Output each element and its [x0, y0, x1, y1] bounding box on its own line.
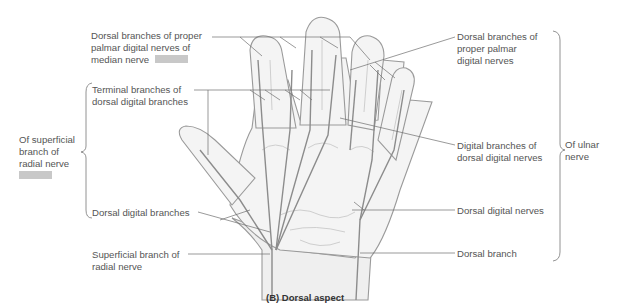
- label-dorsal-digital-branches: Dorsal digital branches: [92, 207, 190, 219]
- figure-caption: (B) Dorsal aspect: [266, 292, 344, 303]
- label-ulnar-group: Of ulnar nerve: [565, 139, 599, 163]
- label-terminal-branches: Terminal branches of dorsal digital bran…: [92, 84, 188, 108]
- label-ulnar-dorsal-branches: Dorsal branches of proper palmar digital…: [457, 31, 538, 67]
- median-nerve-color-key: [155, 55, 188, 63]
- radial-nerve-color-key: [19, 171, 52, 179]
- label-superficial-radial-group: Of superficial branch of radial nerve: [19, 134, 75, 170]
- label-dorsal-digital-nerves: Dorsal digital nerves: [457, 205, 544, 217]
- label-superficial-branch-radial: Superficial branch of radial nerve: [92, 249, 179, 273]
- label-digital-branches-dorsal: Digital branches of dorsal digital nerve…: [457, 140, 542, 164]
- label-dorsal-branch: Dorsal branch: [457, 248, 517, 260]
